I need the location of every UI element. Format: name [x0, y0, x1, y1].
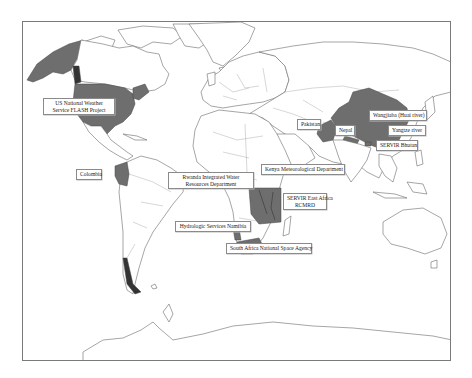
label-pakistan: Pakistan [297, 119, 321, 130]
region-colombia [115, 162, 129, 186]
label-kenya-met: Kenya Meteorological Department [261, 164, 345, 175]
label-colombia: Colombia [76, 169, 102, 180]
label-namibia-hydro: Hydrologic Services Namibia [175, 221, 251, 232]
land-se-asia [379, 154, 397, 182]
region-bhutan [365, 142, 371, 146]
label-line: Service FLASH Project [47, 107, 111, 114]
label-line: US National Weather [47, 100, 111, 107]
label-line: South Africa National Space Agency [230, 245, 308, 252]
world-map [23, 22, 451, 361]
label-nepal: Nepal [335, 125, 355, 136]
label-line: Kenya Meteorological Department [265, 166, 341, 173]
land-caribbean [123, 134, 147, 140]
world-map-frame: US National Weather Service FLASH Projec… [22, 21, 451, 361]
label-line: SERVIR East Africa [287, 195, 323, 202]
label-sansa: South Africa National Space Agency [226, 243, 312, 254]
land-antarctica [83, 322, 451, 361]
land-australia [383, 208, 447, 254]
label-line: RCMRD [287, 202, 323, 209]
label-line: Hydrologic Services Namibia [179, 223, 247, 230]
label-line: Colombia [80, 171, 98, 178]
label-line: Wangjiaba (Huai river) [373, 112, 423, 119]
label-servir-east-africa: SERVIR East Africa RCMRD [283, 193, 327, 210]
label-yangtze: Yangtze river [388, 125, 426, 136]
label-line: Nepal [339, 127, 351, 134]
label-line: SERVIR Bhutan [380, 142, 414, 149]
label-us-nws-flash: US National Weather Service FLASH Projec… [43, 98, 115, 115]
label-line: Resources Department [172, 181, 250, 188]
label-line: Pakistan [301, 121, 317, 128]
label-wangjiaba: Wangjiaba (Huai river) [369, 110, 427, 121]
label-line: Rwanda Integrated Water [172, 174, 250, 181]
label-line: Yangtze river [392, 127, 422, 134]
label-servir-bhutan: SERVIR Bhutan [376, 140, 418, 151]
label-rwanda-iwrd: Rwanda Integrated Water Resources Depart… [168, 172, 254, 189]
